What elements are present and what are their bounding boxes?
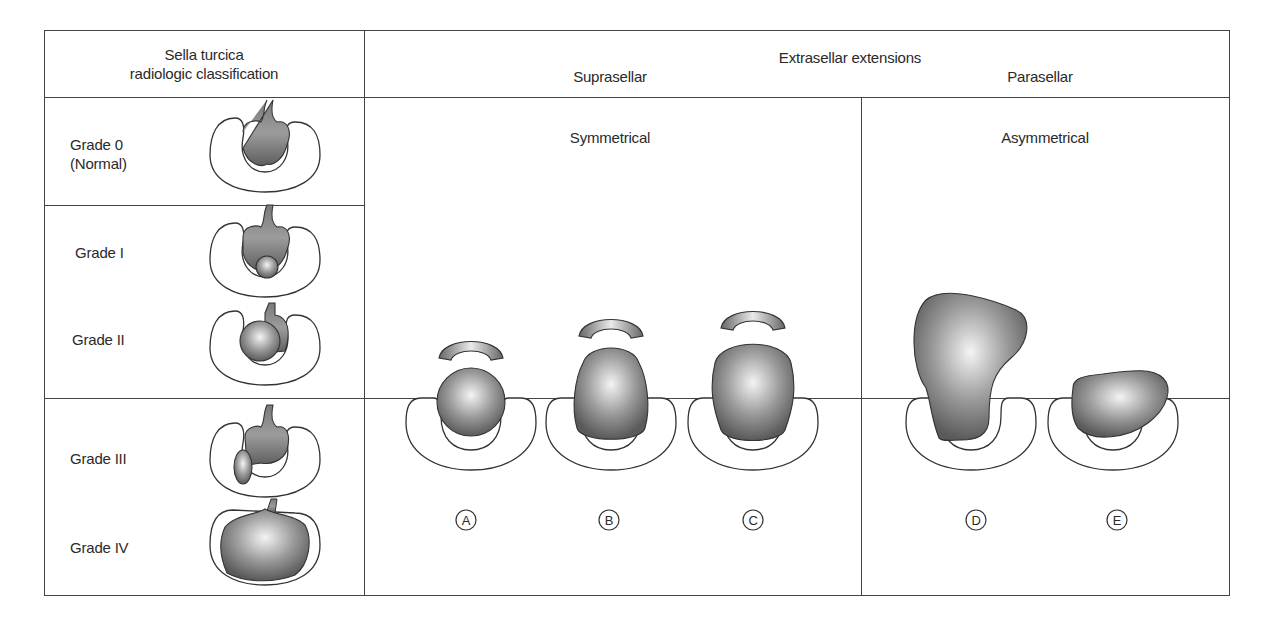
grade-4-illustration: [210, 499, 320, 585]
label-a: A: [456, 511, 476, 530]
grade-1-illustration: [210, 205, 320, 297]
grade-0-illustration: [210, 100, 320, 192]
label-e: E: [1107, 511, 1127, 530]
figure-a: [406, 342, 536, 471]
figure-b: [546, 320, 676, 471]
figure-e: [1048, 371, 1178, 470]
grade-2-illustration: [210, 303, 320, 385]
label-b: B: [599, 511, 619, 530]
illustrations: [0, 0, 1267, 629]
grade-3-illustration: [210, 405, 320, 497]
label-circles: [456, 510, 1127, 530]
label-c: C: [743, 511, 763, 530]
figure-d: [906, 293, 1036, 470]
figure-c: [688, 312, 818, 471]
label-d: D: [966, 511, 986, 530]
